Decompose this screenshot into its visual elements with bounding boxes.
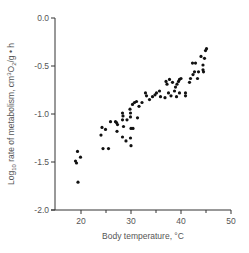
x-tick-label: 40 bbox=[176, 216, 186, 226]
data-point bbox=[175, 95, 178, 98]
data-point bbox=[196, 77, 199, 80]
x-tick-label: 50 bbox=[226, 216, 236, 226]
data-point bbox=[203, 57, 206, 60]
y-axis-ticks: 0.0-0.5-1.0-1.5-2.0 bbox=[34, 13, 55, 215]
data-point bbox=[129, 144, 132, 147]
data-point bbox=[137, 105, 140, 108]
data-point bbox=[201, 63, 204, 66]
data-point bbox=[135, 100, 138, 103]
data-point bbox=[193, 70, 196, 73]
data-point bbox=[122, 125, 125, 128]
data-point bbox=[109, 120, 112, 123]
data-point bbox=[76, 150, 79, 153]
data-point bbox=[202, 70, 205, 73]
data-point bbox=[125, 118, 128, 121]
data-point bbox=[173, 89, 176, 92]
data-point bbox=[144, 91, 147, 94]
data-point bbox=[124, 139, 127, 142]
data-point bbox=[165, 83, 168, 86]
x-tick-label: 30 bbox=[126, 216, 136, 226]
data-point bbox=[107, 147, 110, 150]
data-point bbox=[184, 94, 187, 97]
data-point bbox=[199, 55, 202, 58]
data-point bbox=[121, 111, 124, 114]
data-point bbox=[179, 77, 182, 80]
data-point bbox=[131, 127, 134, 130]
data-points bbox=[74, 47, 208, 184]
data-point bbox=[167, 91, 170, 94]
data-point bbox=[115, 130, 118, 133]
data-point bbox=[116, 123, 119, 126]
data-point bbox=[175, 83, 178, 86]
data-point bbox=[205, 47, 208, 50]
x-tick-label: 20 bbox=[76, 216, 86, 226]
data-point bbox=[129, 115, 132, 118]
data-point bbox=[191, 73, 194, 76]
data-point bbox=[140, 101, 143, 104]
data-point bbox=[191, 62, 194, 65]
data-point bbox=[168, 78, 171, 81]
data-point bbox=[158, 89, 161, 92]
data-point bbox=[129, 136, 132, 139]
data-point bbox=[194, 62, 197, 65]
data-point bbox=[169, 94, 172, 97]
data-point bbox=[121, 118, 124, 121]
data-point bbox=[197, 70, 200, 73]
data-point bbox=[163, 96, 166, 99]
y-tick-label: -0.5 bbox=[34, 61, 49, 71]
data-point bbox=[188, 81, 191, 84]
data-point bbox=[79, 156, 82, 159]
data-point bbox=[164, 80, 167, 83]
data-point bbox=[136, 116, 139, 119]
data-point bbox=[155, 91, 158, 94]
x-axis-title: Body temperature, °C bbox=[102, 231, 184, 241]
data-point bbox=[121, 114, 124, 117]
data-point bbox=[104, 128, 107, 131]
data-point bbox=[148, 98, 151, 101]
data-point bbox=[101, 147, 104, 150]
data-point bbox=[100, 126, 103, 129]
y-tick-label: 0.0 bbox=[37, 13, 49, 23]
data-point bbox=[145, 94, 148, 97]
data-point bbox=[75, 161, 78, 164]
data-point bbox=[171, 81, 174, 84]
x-axis-ticks: 20304050 bbox=[76, 210, 236, 226]
y-tick-label: -2.0 bbox=[34, 205, 49, 215]
data-point bbox=[129, 111, 132, 114]
data-point bbox=[121, 135, 124, 138]
scatter-chart: 0.0-0.5-1.0-1.5-2.0 20304050 Body temper… bbox=[0, 0, 249, 253]
y-tick-label: -1.5 bbox=[34, 157, 49, 167]
data-point bbox=[189, 77, 192, 80]
data-point bbox=[76, 181, 79, 184]
y-axis-title: Log10 rate of metabolism, cm3O2/g • h bbox=[6, 43, 17, 185]
y-tick-label: -1.0 bbox=[34, 109, 49, 119]
data-point bbox=[159, 95, 162, 98]
data-point bbox=[174, 86, 177, 89]
data-point bbox=[128, 108, 131, 111]
data-point bbox=[184, 91, 187, 94]
data-point bbox=[99, 134, 102, 137]
data-point bbox=[178, 91, 181, 94]
